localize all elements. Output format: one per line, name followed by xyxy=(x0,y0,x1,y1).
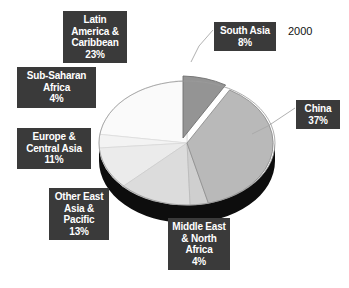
callout-value: 8% xyxy=(218,37,272,49)
pie-slice-latin-america-caribbean-main xyxy=(100,81,187,143)
callout-middle-east-north-africa[interactable]: Middle East & North Africa 4% xyxy=(168,218,230,270)
callout-value: 4% xyxy=(172,256,226,268)
callout-value: 11% xyxy=(21,154,87,166)
callout-line: Middle East xyxy=(172,221,226,233)
callout-line: Central Asia xyxy=(21,143,87,155)
callout-value: 23% xyxy=(67,49,123,61)
leader-line-south-asia xyxy=(191,30,213,62)
callout-sub-saharan-africa[interactable]: Sub-Saharan Africa 4% xyxy=(17,67,96,108)
callout-latin-america-caribbean[interactable]: Latin America & Caribbean 23% xyxy=(63,11,127,63)
callout-china[interactable]: China 37% xyxy=(296,100,340,129)
pie-chart-figure: Latin America & Caribbean 23% Sub-Sahara… xyxy=(0,0,349,288)
callout-line: America & xyxy=(67,26,123,38)
chart-title-year: 2000 xyxy=(288,25,312,37)
callout-value: 37% xyxy=(300,115,336,127)
callout-line: Pacific xyxy=(53,214,105,226)
callout-line: Other East xyxy=(53,191,105,203)
callout-line: Caribbean xyxy=(67,37,123,49)
callout-line: Africa xyxy=(172,244,226,256)
callout-line: Europe & xyxy=(21,131,87,143)
callout-line: Sub-Saharan xyxy=(21,70,92,82)
callout-line: Asia & xyxy=(53,203,105,215)
callout-line: China xyxy=(300,103,336,115)
callout-europe-central-asia[interactable]: Europe & Central Asia 11% xyxy=(17,128,91,169)
callout-line: & North xyxy=(172,233,226,245)
callout-line: South Asia xyxy=(218,25,272,37)
callout-value: 13% xyxy=(53,226,105,238)
callout-line: Africa xyxy=(21,82,92,94)
callout-other-east-asia-pacific[interactable]: Other East Asia & Pacific 13% xyxy=(49,188,109,240)
callout-south-asia[interactable]: South Asia 8% xyxy=(214,22,276,51)
callout-value: 4% xyxy=(21,93,92,105)
callout-line: Latin xyxy=(67,14,123,26)
